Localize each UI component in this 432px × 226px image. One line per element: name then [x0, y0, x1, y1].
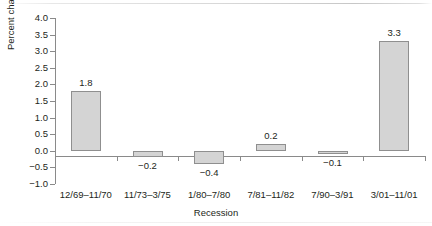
scan-artifact-top-line	[0, 3, 432, 4]
y-axis-tick-mark	[50, 35, 55, 36]
bar	[71, 91, 101, 151]
y-axis-tick-mark	[50, 51, 55, 52]
bar	[194, 151, 224, 164]
x-axis-tick-mark	[55, 156, 56, 161]
x-axis-title: Recession	[0, 208, 432, 218]
y-axis-tick-mark	[50, 18, 55, 19]
y-axis-tick-mark	[50, 167, 55, 168]
chart-figure: Percent change 4.03.53.02.52.01.51.00.50…	[0, 0, 432, 226]
y-axis-title: Percent change	[6, 0, 16, 50]
x-axis-tick-mark	[363, 156, 364, 161]
y-axis-tick-label: 4.0	[35, 13, 48, 23]
x-axis-tick-mark	[425, 156, 426, 161]
x-axis-tick-mark	[178, 156, 179, 161]
y-axis-tick-label: −0.5	[29, 163, 48, 173]
bar	[379, 41, 409, 151]
y-axis-tick-mark	[50, 151, 55, 152]
y-axis-tick-mark	[50, 101, 55, 102]
y-axis-tick-label: 3.0	[35, 46, 48, 56]
y-axis-tick-label: 0.0	[35, 146, 48, 156]
bar-value-label: −0.1	[302, 158, 364, 168]
bar-value-label: −0.2	[117, 161, 179, 171]
bar	[256, 144, 286, 151]
x-axis-tick-mark	[117, 156, 118, 161]
scan-artifact-bottom-line	[0, 222, 432, 223]
y-axis-tick-mark	[50, 118, 55, 119]
y-axis-tick-label: 2.5	[35, 63, 48, 73]
y-axis-tick-label: 1.0	[35, 113, 48, 123]
bar	[318, 151, 348, 154]
bar-value-label: 0.2	[240, 131, 302, 141]
y-axis-tick-label: 0.5	[35, 129, 48, 139]
y-axis-tick-mark	[50, 184, 55, 185]
bar-value-label: 1.8	[55, 78, 117, 88]
bar	[133, 151, 163, 158]
bar-value-label: −0.4	[178, 168, 240, 178]
y-axis-tick-label: −1.0	[29, 179, 48, 189]
y-axis-tick-label: 1.5	[35, 96, 48, 106]
y-axis-tick-mark	[50, 68, 55, 69]
y-axis-tick-mark	[50, 134, 55, 135]
x-axis-category-label: 3/01–11/01	[356, 190, 432, 200]
bar-value-label: 3.3	[363, 28, 425, 38]
plot-area: 4.03.53.02.52.01.51.00.50.0−0.5−1.0 1.8−…	[55, 18, 425, 184]
y-axis-tick-label: 3.5	[35, 30, 48, 40]
x-axis-tick-mark	[240, 156, 241, 161]
y-axis-tick-label: 2.0	[35, 80, 48, 90]
